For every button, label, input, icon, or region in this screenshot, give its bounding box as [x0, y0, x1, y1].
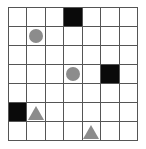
- triangle-icon: [83, 125, 99, 139]
- grid-cell: [8, 7, 26, 26]
- grid-cell: [82, 83, 100, 102]
- grid-cell: [119, 7, 137, 26]
- grid-cell: [100, 26, 118, 45]
- grid-cell: [8, 45, 26, 64]
- grid-cell: [100, 121, 118, 140]
- grid-cell: [45, 121, 63, 140]
- grid-cell: [82, 64, 100, 83]
- grid-cell: [26, 83, 44, 102]
- grid-cell: [45, 7, 63, 26]
- grid-cell: [45, 64, 63, 83]
- grid-cell: [8, 64, 26, 83]
- grid-cell: [26, 7, 44, 26]
- circle-icon: [29, 29, 43, 43]
- wall-cell: [8, 102, 26, 121]
- grid-cell: [8, 121, 26, 140]
- grid-cell: [8, 83, 26, 102]
- grid-cell: [8, 26, 26, 45]
- grid-board: [8, 7, 138, 141]
- grid-cell: [82, 121, 100, 140]
- grid-cell: [119, 102, 137, 121]
- grid-cell: [63, 102, 81, 121]
- grid-cell: [119, 26, 137, 45]
- grid-cell: [45, 83, 63, 102]
- grid-cell: [63, 45, 81, 64]
- grid-cell: [26, 121, 44, 140]
- grid-cell: [26, 64, 44, 83]
- grid-cell: [119, 64, 137, 83]
- grid-cell: [82, 26, 100, 45]
- grid-cell: [26, 45, 44, 64]
- wall-cell: [63, 7, 81, 26]
- grid-cell: [119, 121, 137, 140]
- grid-cell: [63, 26, 81, 45]
- grid-cell: [26, 102, 44, 121]
- grid-cell: [45, 102, 63, 121]
- grid-cell: [82, 7, 100, 26]
- grid-cell: [100, 45, 118, 64]
- grid-cell: [82, 45, 100, 64]
- grid-cell: [100, 102, 118, 121]
- grid-cell: [63, 83, 81, 102]
- grid-cell: [45, 45, 63, 64]
- circle-icon: [66, 67, 80, 81]
- grid-cell: [45, 26, 63, 45]
- grid-cell: [100, 83, 118, 102]
- grid-cell: [63, 121, 81, 140]
- triangle-icon: [28, 106, 44, 120]
- grid-cell: [119, 83, 137, 102]
- grid-cell: [119, 45, 137, 64]
- wall-cell: [100, 64, 118, 83]
- grid-cell: [82, 102, 100, 121]
- grid-cell: [63, 64, 81, 83]
- grid-cell: [100, 7, 118, 26]
- grid-cell: [26, 26, 44, 45]
